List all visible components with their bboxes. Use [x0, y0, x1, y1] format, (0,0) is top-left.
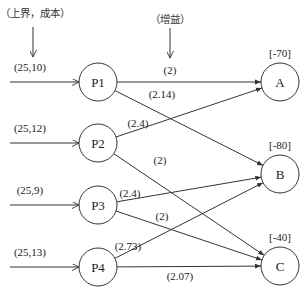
source-annotation-label: （上界，成本） — [0, 7, 70, 19]
sink-node-label: A — [275, 75, 285, 90]
sink-node-label: C — [276, 259, 285, 274]
input-label: (25,13) — [14, 246, 46, 259]
generalized-network-diagram: （上界，成本） （增益） P1P2P3P4ABC (25,10)(25,12)(… — [0, 0, 307, 297]
edge-P3-C — [116, 211, 262, 260]
edge-gain-label: (2) — [156, 210, 169, 223]
input-label: (25,10) — [14, 61, 46, 74]
input-label: (25,12) — [14, 122, 46, 135]
diagram-svg: （上界，成本） （增益） P1P2P3P4ABC (25,10)(25,12)(… — [0, 0, 307, 297]
edge-gain-label: (2) — [164, 64, 177, 77]
edge-gain-label: (2) — [154, 154, 167, 167]
input-arrows — [10, 82, 79, 267]
edge-P2-A — [116, 88, 262, 137]
edge-gain-label: (2.07) — [167, 270, 194, 283]
nodes: P1P2P3P4ABC — [79, 63, 299, 286]
source-node-label: P3 — [91, 198, 105, 213]
sink-demand-label: [-80] — [269, 139, 291, 151]
edge-gain-label: (2.14) — [149, 88, 176, 101]
sink-demand-label: [-70] — [269, 47, 291, 59]
gain-annotation-label: （增益） — [150, 13, 190, 25]
source-node-label: P4 — [91, 260, 105, 275]
input-label: (25,9) — [17, 184, 44, 197]
edge-gain-label: (2.4) — [119, 187, 140, 200]
sink-node-label: B — [276, 167, 285, 182]
sink-demand-label: [-40] — [269, 231, 291, 243]
edge-gain-label: (2.73) — [115, 240, 142, 253]
edge-gain-label: (2.4) — [127, 117, 148, 130]
edge-P4-C — [117, 266, 261, 267]
source-node-label: P1 — [91, 75, 105, 90]
source-node-label: P2 — [91, 136, 105, 151]
